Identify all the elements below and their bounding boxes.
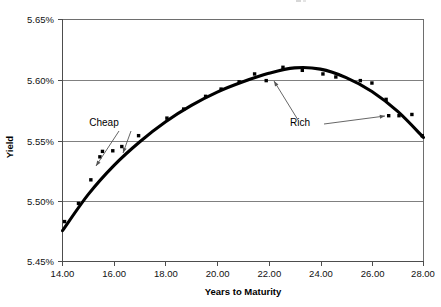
annotation-arrowhead [274, 81, 278, 86]
x-tick-label: 24.00 [309, 268, 333, 279]
data-point [182, 107, 185, 110]
data-point [165, 116, 168, 119]
annotation-leader-lines [96, 81, 385, 166]
data-point [63, 220, 66, 223]
y-tick-label: 5.50% [27, 196, 54, 207]
annotation-arrow [324, 116, 385, 124]
x-tick-label: 20.00 [206, 268, 230, 279]
data-point [281, 66, 284, 69]
data-point [77, 202, 80, 205]
data-point [359, 79, 362, 82]
data-point [301, 69, 304, 72]
cropped-title-sliver [296, 0, 306, 2]
chart-container: 5.65% 5.60% 5.55% 5.50% 5.45% 14.00 16.0… [0, 0, 441, 307]
y-axis-ticks [58, 20, 62, 262]
x-axis-title: Years to Maturity [205, 286, 282, 297]
data-point [237, 80, 240, 83]
x-tick-label: 16.00 [102, 268, 126, 279]
plot-gridlines [62, 20, 424, 202]
annotation-arrow [274, 81, 298, 120]
y-tick-label: 5.65% [27, 14, 54, 25]
data-point [253, 72, 256, 75]
data-point [421, 134, 424, 137]
x-tick-label: 26.00 [361, 268, 385, 279]
annotation-label-rich: Rich [290, 117, 310, 128]
plot-data-layer [63, 66, 424, 231]
yield-curve-chart: 5.65% 5.60% 5.55% 5.50% 5.45% 14.00 16.0… [0, 0, 441, 307]
fitted-curve [63, 68, 424, 231]
y-axis-title: Yield [4, 136, 15, 159]
x-tick-label: 22.00 [257, 268, 281, 279]
annotation-arrowhead [96, 161, 101, 166]
data-point [111, 149, 114, 152]
data-point [387, 114, 390, 117]
data-point [410, 113, 413, 116]
data-point [265, 79, 268, 82]
data-point [137, 134, 140, 137]
annotation-arrow [96, 131, 119, 166]
data-point [101, 150, 104, 153]
data-point [89, 178, 92, 181]
plot-frame [62, 19, 424, 262]
x-axis-ticks [63, 262, 424, 266]
data-point [204, 95, 207, 98]
annotation-arrowhead [380, 115, 385, 119]
y-tick-label: 5.60% [27, 75, 54, 86]
data-point [321, 72, 324, 75]
data-point [219, 87, 222, 90]
data-point [334, 75, 337, 78]
x-tick-label: 14.00 [51, 268, 75, 279]
annotation-label-cheap: Cheap [89, 117, 119, 128]
y-axis-tick-labels: 5.65% 5.60% 5.55% 5.50% 5.45% [27, 14, 54, 267]
x-tick-label: 18.00 [154, 268, 178, 279]
data-point [370, 81, 373, 84]
data-point [397, 114, 400, 117]
x-axis-tick-labels: 14.00 16.00 18.00 20.00 22.00 24.00 26.0… [51, 268, 435, 279]
y-tick-label: 5.45% [27, 256, 54, 267]
x-tick-label: 28.00 [411, 268, 435, 279]
y-tick-label: 5.55% [27, 136, 54, 147]
data-point [384, 98, 387, 101]
